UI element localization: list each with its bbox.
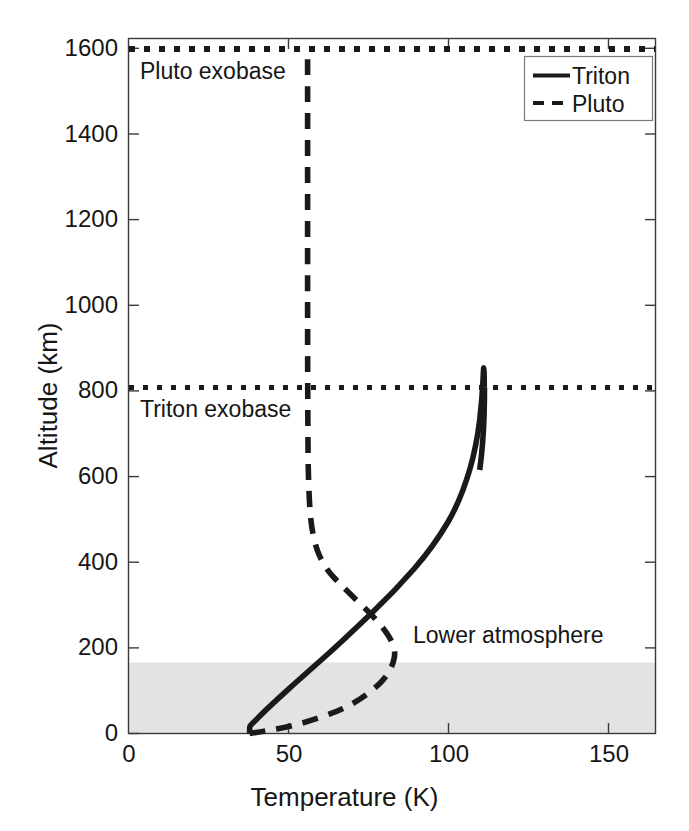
y-tick-label-200: 200 [38, 633, 118, 661]
y-tick-label-1200: 1200 [38, 205, 118, 233]
y-tick-label-1400: 1400 [38, 120, 118, 148]
legend-label-triton: Triton [572, 63, 630, 90]
lower-atmosphere-label: Lower atmosphere [413, 622, 604, 649]
pluto-exobase-label: Pluto exobase [140, 58, 286, 85]
figure-container: Altitude (km) Temperature (K) 0 200 400 … [0, 0, 689, 831]
triton-exobase-label: Triton exobase [140, 396, 291, 423]
pluto-profile-line [250, 49, 395, 734]
legend-label-pluto: Pluto [572, 91, 624, 118]
y-tick-label-800: 800 [38, 376, 118, 404]
y-tick-label-600: 600 [38, 462, 118, 490]
x-tick-label-0: 0 [89, 740, 169, 768]
x-tick-label-100: 100 [409, 740, 489, 768]
x-tick-label-150: 150 [569, 740, 649, 768]
lower-atmosphere-band [129, 663, 656, 734]
x-tick-label-50: 50 [249, 740, 329, 768]
y-tick-label-400: 400 [38, 548, 118, 576]
x-axis-label: Temperature (K) [0, 782, 689, 813]
y-tick-label-1600: 1600 [38, 34, 118, 62]
y-tick-label-1000: 1000 [38, 291, 118, 319]
